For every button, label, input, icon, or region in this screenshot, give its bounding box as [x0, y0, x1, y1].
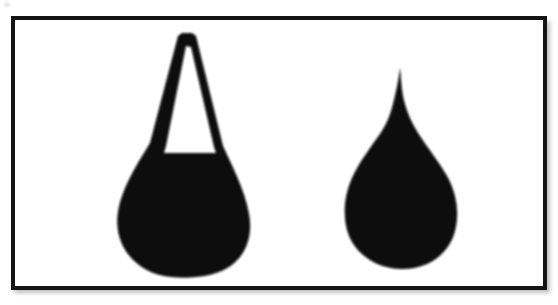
figure-root: Black pendant drop silhouette hanging fr… — [0, 0, 558, 305]
figure-border-frame — [11, 16, 547, 290]
scan-artifact-speck — [4, 2, 10, 7]
